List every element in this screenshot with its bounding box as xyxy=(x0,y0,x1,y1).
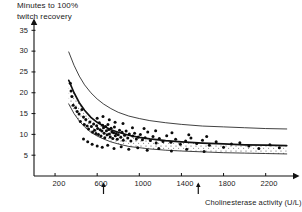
data-point xyxy=(128,132,131,135)
data-point xyxy=(203,150,206,153)
data-point xyxy=(88,120,91,123)
confidence-band-shaded xyxy=(69,80,287,154)
data-point xyxy=(238,141,241,144)
data-point xyxy=(120,145,123,148)
chart-figure: Minutes to 100%twitch recovery 35 30 25 … xyxy=(0,0,302,212)
data-point xyxy=(111,137,114,140)
data-point xyxy=(230,142,233,145)
data-point xyxy=(70,90,73,93)
data-point xyxy=(129,140,132,143)
data-point xyxy=(104,125,107,128)
data-point xyxy=(126,137,129,140)
data-point xyxy=(97,133,100,136)
data-point xyxy=(141,138,144,141)
data-point xyxy=(96,145,99,148)
axis-arrow-markers xyxy=(101,183,200,195)
data-point xyxy=(154,129,157,132)
data-point xyxy=(144,136,147,139)
data-point xyxy=(78,112,81,115)
arrow-marker-high-head xyxy=(196,183,201,188)
data-point xyxy=(91,143,94,146)
fitted-curves xyxy=(69,52,287,154)
data-point xyxy=(136,146,139,149)
data-point xyxy=(157,147,160,150)
data-point xyxy=(137,135,140,138)
data-point xyxy=(185,148,188,151)
data-point xyxy=(169,141,172,144)
data-point xyxy=(96,117,99,120)
data-point xyxy=(110,127,113,130)
data-point xyxy=(117,133,120,136)
data-point xyxy=(109,135,112,138)
data-point xyxy=(82,137,85,140)
data-point xyxy=(247,145,250,148)
data-point xyxy=(195,142,198,145)
data-point xyxy=(179,143,182,146)
data-point xyxy=(82,115,85,118)
data-point xyxy=(101,146,104,149)
data-point xyxy=(108,118,111,121)
data-point xyxy=(69,82,72,85)
data-point xyxy=(108,132,111,135)
data-point xyxy=(84,118,87,121)
data-point xyxy=(215,140,218,143)
data-point xyxy=(162,140,165,143)
data-point xyxy=(201,139,204,142)
data-point xyxy=(93,129,96,132)
data-point xyxy=(121,122,124,125)
data-point xyxy=(79,120,82,123)
data-point xyxy=(80,108,83,111)
data-point xyxy=(86,125,89,128)
data-point xyxy=(165,134,168,137)
upper-confidence-curve xyxy=(69,52,287,129)
data-point xyxy=(86,140,89,143)
data-point xyxy=(98,121,101,124)
arrow-marker-low-head xyxy=(101,183,106,188)
data-point xyxy=(95,124,98,127)
data-point xyxy=(189,137,192,140)
data-point xyxy=(155,142,158,145)
data-point xyxy=(121,131,124,134)
data-point xyxy=(106,123,109,126)
data-point xyxy=(122,139,125,142)
data-point xyxy=(70,95,73,98)
data-point xyxy=(208,144,211,147)
data-point xyxy=(268,143,271,146)
data-point xyxy=(127,148,130,151)
data-point xyxy=(131,126,134,129)
data-point xyxy=(99,135,102,138)
data-point xyxy=(222,146,225,149)
data-point xyxy=(92,122,95,125)
data-point xyxy=(152,135,155,138)
data-point xyxy=(170,131,173,134)
data-point xyxy=(116,138,119,141)
data-point xyxy=(87,127,90,130)
data-point xyxy=(123,134,126,137)
data-point xyxy=(133,132,136,135)
data-point xyxy=(100,130,103,133)
data-point xyxy=(113,147,116,150)
data-point xyxy=(146,149,149,152)
data-point xyxy=(114,121,117,124)
data-point xyxy=(184,140,187,143)
data-point xyxy=(103,136,106,139)
data-point xyxy=(76,110,79,113)
data-point xyxy=(146,130,149,133)
data-point xyxy=(119,136,122,139)
data-point xyxy=(101,115,104,118)
stippled-confidence-region xyxy=(69,80,287,154)
data-point xyxy=(170,150,173,153)
data-point xyxy=(131,135,134,138)
data-point xyxy=(103,132,106,135)
data-point xyxy=(187,133,190,136)
data-point xyxy=(118,129,121,132)
data-point xyxy=(149,139,152,142)
data-point xyxy=(278,146,281,149)
data-point xyxy=(90,125,93,128)
data-point xyxy=(205,135,208,138)
data-point xyxy=(174,138,177,141)
data-point xyxy=(139,133,142,136)
plot-canvas xyxy=(0,0,302,212)
data-point xyxy=(106,144,109,147)
data-point xyxy=(125,130,128,133)
